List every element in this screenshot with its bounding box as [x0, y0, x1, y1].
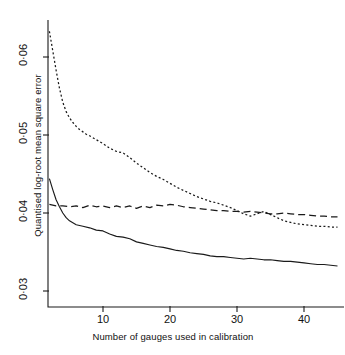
y-axis-tick-label: 0·03 — [17, 272, 29, 306]
x-axis-tick-label: 40 — [291, 313, 317, 325]
chart-plot-area — [0, 0, 345, 355]
x-axis-tick-label: 30 — [224, 313, 250, 325]
y-axis-label: Quantised log-root mean square error — [32, 61, 43, 251]
chart-figure: Quantised log-root mean square error Num… — [0, 0, 345, 355]
series-line-solid — [49, 179, 337, 266]
series-line-dotted — [49, 31, 337, 227]
axis-spines — [48, 20, 344, 307]
y-axis-tick-label: 0·04 — [17, 194, 29, 228]
y-axis-tick-label: 0·06 — [17, 38, 29, 72]
x-axis-tick-label: 10 — [90, 313, 116, 325]
series-line-dashed — [49, 204, 337, 216]
x-axis-label: Number of gauges used in calibration — [48, 331, 298, 342]
y-axis-tick-label: 0·05 — [17, 116, 29, 150]
x-axis-tick-label: 20 — [157, 313, 183, 325]
